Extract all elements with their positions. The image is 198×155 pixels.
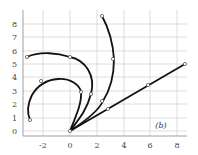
marker bbox=[39, 79, 42, 82]
marker bbox=[111, 57, 114, 60]
y-tick: 4 bbox=[12, 73, 17, 82]
y-tick: 8 bbox=[12, 20, 17, 29]
panel-label: (b) bbox=[155, 121, 166, 130]
x-tick: -2 bbox=[39, 141, 47, 150]
origin-marker bbox=[68, 129, 71, 132]
x-tick: 8 bbox=[174, 141, 179, 150]
x-tick-labels: -2 0 2 4 6 8 bbox=[39, 141, 179, 150]
y-tick: 0 bbox=[12, 127, 17, 136]
y-tick: 5 bbox=[12, 60, 17, 69]
x-tick: 0 bbox=[67, 141, 72, 150]
x-tick: 6 bbox=[147, 141, 152, 150]
marker bbox=[79, 90, 82, 93]
marker bbox=[106, 107, 109, 110]
x-tick: 4 bbox=[121, 141, 126, 150]
grid bbox=[23, 10, 187, 136]
marker bbox=[28, 118, 31, 121]
y-tick: 6 bbox=[12, 47, 17, 56]
y-tick: 2 bbox=[12, 100, 17, 109]
y-tick: 3 bbox=[12, 87, 17, 96]
straight-line bbox=[70, 64, 185, 131]
x-tick: 2 bbox=[94, 141, 99, 150]
y-tick-labels: 0 1 2 3 4 5 6 7 8 bbox=[12, 20, 17, 136]
curves bbox=[27, 16, 185, 131]
y-tick: 7 bbox=[12, 33, 17, 42]
marker bbox=[68, 55, 71, 58]
marker bbox=[25, 55, 28, 58]
y-tick: 1 bbox=[12, 114, 17, 123]
marker bbox=[100, 99, 103, 102]
trajectory-chart: 0 1 2 3 4 5 6 7 8 -2 0 2 4 6 8 (b bbox=[0, 0, 198, 155]
marker bbox=[146, 83, 149, 86]
marker bbox=[100, 14, 103, 17]
curve-3 bbox=[28, 79, 81, 131]
marker bbox=[89, 92, 92, 95]
markers bbox=[25, 14, 186, 132]
marker bbox=[183, 62, 186, 65]
